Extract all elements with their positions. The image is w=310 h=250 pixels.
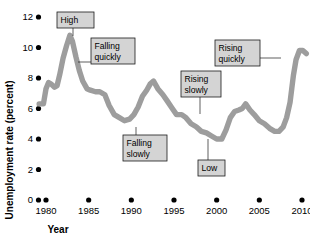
y-tick-dot — [36, 197, 41, 202]
annotation-label-rising-quickly: Rising — [219, 43, 243, 53]
y-tick-dot — [36, 106, 41, 111]
x-tick-label: 2000 — [206, 205, 227, 216]
annotation-label2-falling-quickly: quickly — [95, 52, 122, 62]
x-tick-label: 1990 — [121, 205, 142, 216]
annotation-label-rising-slowly: Rising — [185, 74, 209, 84]
x-axis-title: Year — [47, 224, 68, 235]
annotation-label-high: High — [61, 15, 79, 25]
y-tick-dot — [36, 136, 41, 141]
data-line-unemployment-rate — [39, 35, 306, 139]
x-tick-dot — [129, 197, 134, 202]
data-series-group — [39, 35, 306, 139]
annotation-label2-rising-slowly: slowly — [185, 85, 209, 95]
x-tick-dot — [299, 197, 304, 202]
annotation-label-low: Low — [202, 163, 219, 173]
y-tick-label: 2 — [28, 164, 33, 175]
y-tick-label: 4 — [28, 133, 33, 144]
y-tick-label: 12 — [22, 11, 33, 22]
x-tick-dot — [257, 197, 262, 202]
y-tick-dot — [36, 75, 41, 80]
y-tick-label: 8 — [28, 72, 33, 83]
x-tick-label: 2005 — [249, 205, 270, 216]
y-tick-label: 6 — [28, 103, 33, 114]
y-tick-dot — [36, 14, 41, 19]
y-tick-dot — [36, 45, 41, 50]
chart-canvas: 024681012 1980198519901995200020052010 H… — [0, 0, 310, 250]
annotation-label-falling-slowly: Falling — [127, 138, 153, 148]
unemployment-rate-chart: 024681012 1980198519901995200020052010 H… — [0, 0, 310, 250]
y-axis-title: Unemployment rate (percent) — [4, 81, 15, 220]
y-tick-label: 0 — [28, 194, 33, 205]
y-axis: 024681012 — [22, 11, 41, 205]
x-tick-label: 1985 — [78, 205, 99, 216]
x-tick-dot — [86, 197, 91, 202]
annotation-group: HighFallingquicklyFallingslowlyRisingslo… — [57, 12, 281, 176]
x-tick-dot — [171, 197, 176, 202]
y-tick-label: 10 — [22, 42, 33, 53]
x-tick-label: 1980 — [35, 205, 56, 216]
annotation-label2-falling-slowly: slowly — [127, 149, 151, 159]
x-tick-dot — [43, 197, 48, 202]
x-tick-dot — [214, 197, 219, 202]
annotation-label2-rising-quickly: quickly — [219, 54, 246, 64]
y-tick-dot — [36, 167, 41, 172]
x-tick-label: 2010 — [291, 205, 310, 216]
x-axis: 1980198519901995200020052010 — [35, 197, 310, 216]
x-tick-label: 1995 — [163, 205, 184, 216]
annotation-label-falling-quickly: Falling — [95, 41, 121, 51]
